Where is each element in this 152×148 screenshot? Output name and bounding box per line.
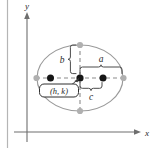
- semi-major-brace: [80, 65, 122, 74]
- center-coordinates-label: (h, k): [50, 86, 68, 96]
- x-axis-arrowhead: [134, 129, 141, 135]
- semi-major-label: a: [99, 54, 104, 64]
- semi-major-brace-path: [80, 65, 122, 74]
- bottom-covertex-dot: [77, 108, 83, 114]
- center-callout: (h, k): [40, 78, 80, 97]
- ellipse-figure: a c b (h, k) y x: [0, 0, 152, 148]
- x-axis-label: x: [144, 128, 149, 138]
- focal-distance-label: c: [89, 92, 94, 102]
- semi-minor-brace-path: [68, 45, 76, 74]
- semi-minor-label: b: [60, 55, 65, 65]
- focal-distance-brace-path: [80, 83, 102, 91]
- y-axis-arrowhead: [24, 12, 30, 19]
- semi-minor-brace: [68, 45, 76, 74]
- right-vertex-dot: [120, 75, 126, 81]
- left-focus-dot: [47, 75, 54, 82]
- left-vertex-dot: [33, 75, 39, 81]
- top-covertex-dot: [77, 42, 83, 48]
- right-focus-dot: [100, 75, 107, 82]
- focal-distance-brace: [80, 83, 102, 91]
- y-axis-label: y: [24, 1, 29, 11]
- ellipse-diagram-canvas: a c b (h, k) y x: [0, 0, 152, 148]
